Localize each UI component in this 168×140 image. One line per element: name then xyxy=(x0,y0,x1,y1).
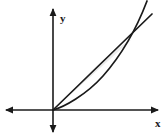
y-axis-label: y xyxy=(60,12,66,24)
y-axis-arrow-up-icon xyxy=(50,8,57,16)
figure-canvas: y x xyxy=(0,0,168,140)
y-axis-arrow-down-icon xyxy=(50,125,57,133)
x-axis-arrow-left-icon xyxy=(5,107,13,114)
straight-line-graph xyxy=(53,14,152,110)
math-figure: y x xyxy=(0,0,168,140)
parabola-curve-graph xyxy=(53,1,147,110)
x-axis-arrow-right-icon xyxy=(151,107,159,114)
x-axis-label: x xyxy=(155,117,161,129)
